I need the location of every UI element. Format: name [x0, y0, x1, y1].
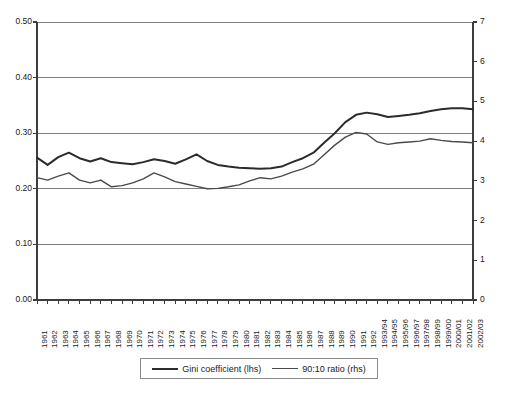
- x-axis-tick-label: 1985: [296, 330, 304, 348]
- x-axis-tick-label: 1979: [232, 330, 240, 348]
- x-axis-tick-label: 1962: [51, 330, 59, 348]
- x-axis-tick-label: 1989: [338, 330, 346, 348]
- legend-item-gini: Gini coefficient (lhs): [152, 364, 261, 374]
- legend-item-label: 90:10 ratio (rhs): [302, 364, 366, 374]
- x-axis-tick-label: 1993/94: [381, 319, 389, 348]
- x-axis-tick-label: 1987: [317, 330, 325, 348]
- y-axis-right-tick-label: 4: [480, 136, 500, 145]
- x-axis-tick-label: 1969: [126, 330, 134, 348]
- x-axis-tick-label: 1999/00: [445, 319, 453, 348]
- x-axis-tick-label: 1984: [285, 330, 293, 348]
- x-axis-tick-label: 1981: [253, 330, 261, 348]
- x-axis-tick-label: 2000/01: [455, 319, 463, 348]
- x-axis-tick-label: 1973: [168, 330, 176, 348]
- y-axis-right-tick-label: 2: [480, 216, 500, 225]
- x-axis-tick-label: 2002/03: [477, 319, 485, 348]
- x-axis-tick-label: 1963: [62, 330, 70, 348]
- x-axis-tick-label: 1976: [200, 330, 208, 348]
- y-axis-left-tick-label: 0.10: [4, 239, 32, 248]
- y-axis-left-tick-label: 0.00: [4, 295, 32, 304]
- x-axis-tick-label: 1980: [243, 330, 251, 348]
- series-line-ratio: [37, 132, 473, 188]
- x-axis-tick-label: 1966: [94, 330, 102, 348]
- x-axis-tick-label: 1992: [370, 330, 378, 348]
- chart-legend: Gini coefficient (lhs)90:10 ratio (rhs): [140, 358, 378, 379]
- y-axis-left-tick-label: 0.40: [4, 73, 32, 82]
- y-axis-left-tick-label: 0.50: [4, 17, 32, 26]
- y-axis-left-tick-label: 0.20: [4, 184, 32, 193]
- x-axis-tick-label: 1994/95: [391, 319, 399, 348]
- x-axis-tick-label: 1996/97: [413, 319, 421, 348]
- x-axis-tick-label: 1961: [41, 330, 49, 348]
- x-axis-tick-label: 1974: [179, 330, 187, 348]
- legend-item-ratio: 90:10 ratio (rhs): [272, 364, 366, 374]
- x-axis-tick-label: 1983: [274, 330, 282, 348]
- x-axis-tick-label: 1982: [264, 330, 272, 348]
- chart-container: 0.000.100.200.300.400.50 01234567 196119…: [0, 0, 516, 397]
- legend-line-swatch-icon: [272, 368, 298, 369]
- x-axis-tick-label: 1970: [136, 330, 144, 348]
- x-axis-tick-label: 1967: [104, 330, 112, 348]
- y-axis-left-tick-label: 0.30: [4, 128, 32, 137]
- x-axis-tick-label: 1971: [147, 330, 155, 348]
- x-axis-tick-label: 1972: [157, 330, 165, 348]
- x-axis-tick-label: 2001/02: [466, 319, 474, 348]
- x-axis-tick-label: 1968: [115, 330, 123, 348]
- x-axis-tick-label: 1998/99: [434, 319, 442, 348]
- y-axis-right-tick-label: 0: [480, 295, 500, 304]
- x-axis-tick-label: 1964: [72, 330, 80, 348]
- x-axis-tick-label: 1997/98: [423, 319, 431, 348]
- legend-line-swatch-icon: [152, 368, 178, 370]
- x-axis-tick-label: 1986: [306, 330, 314, 348]
- series-line-gini: [37, 108, 473, 169]
- x-axis-tick-label: 1988: [328, 330, 336, 348]
- x-axis-tick-label: 1977: [211, 330, 219, 348]
- x-axis-tick-label: 1991: [360, 330, 368, 348]
- x-axis-tick-label: 1995/96: [402, 319, 410, 348]
- y-axis-right-tick-label: 1: [480, 255, 500, 264]
- x-axis-tick-label: 1978: [221, 330, 229, 348]
- y-axis-right-tick-label: 7: [480, 17, 500, 26]
- y-axis-right-tick-label: 6: [480, 57, 500, 66]
- legend-item-label: Gini coefficient (lhs): [182, 364, 261, 374]
- x-axis-tick-label: 1990: [349, 330, 357, 348]
- y-axis-right-tick-label: 5: [480, 96, 500, 105]
- y-axis-right-tick-label: 3: [480, 176, 500, 185]
- x-axis-tick-label: 1965: [83, 330, 91, 348]
- x-axis-tick-label: 1975: [189, 330, 197, 348]
